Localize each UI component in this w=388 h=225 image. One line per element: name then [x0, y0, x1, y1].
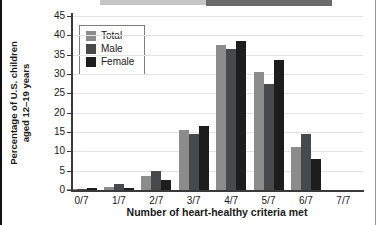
- crop-artifact-top-light: [100, 0, 206, 5]
- bar-total-5/7: [254, 72, 264, 190]
- legend-swatch-male: [86, 44, 96, 54]
- bar-male-5/7: [264, 84, 274, 190]
- bar-total-4/7: [216, 45, 226, 190]
- y-axis-line: [71, 13, 73, 191]
- legend-item-male: Male: [86, 44, 144, 54]
- y-tick-label-10: 10: [39, 145, 65, 157]
- legend-label-female: Female: [101, 57, 134, 67]
- y-axis-title-line2: aged 12–19 years: [20, 33, 32, 173]
- x-tick-label-6/7: 6/7: [291, 195, 321, 207]
- y-tick-label-45: 45: [39, 10, 65, 22]
- y-tick-label-5: 5: [39, 165, 65, 177]
- x-tick-label-4/7: 4/7: [216, 195, 246, 207]
- legend-swatch-female: [86, 57, 96, 67]
- bar-female-4/7: [236, 41, 246, 190]
- x-axis-title: Number of heart-healthy criteria met: [71, 206, 363, 218]
- y-tick-label-25: 25: [39, 87, 65, 99]
- crop-artifact-left-border: [0, 0, 2, 225]
- bar-female-2/7: [161, 180, 171, 190]
- bar-total-2/7: [141, 176, 151, 190]
- bar-total-6/7: [291, 147, 301, 190]
- x-tick-label-5/7: 5/7: [254, 195, 284, 207]
- x-axis-line: [71, 190, 364, 192]
- bar-total-3/7: [179, 130, 189, 190]
- x-tick-label-1/7: 1/7: [104, 195, 134, 207]
- y-tick-label-35: 35: [39, 49, 65, 61]
- x-tick-label-3/7: 3/7: [179, 195, 209, 207]
- y-tick-label-15: 15: [39, 126, 65, 138]
- y-tick-label-0: 0: [39, 184, 65, 196]
- x-tick-label-2/7: 2/7: [141, 195, 171, 207]
- y-axis-title: Percentage of U.S. children aged 12–19 y…: [8, 33, 32, 173]
- bar-female-3/7: [199, 126, 209, 190]
- crop-artifact-top-dark: [206, 0, 332, 6]
- legend-item-female: Female: [86, 57, 144, 67]
- figure: Percentage of U.S. children aged 12–19 y…: [0, 0, 388, 225]
- bar-female-6/7: [311, 159, 321, 190]
- bar-male-3/7: [189, 134, 199, 190]
- bar-male-2/7: [151, 171, 161, 190]
- bar-female-5/7: [274, 60, 284, 190]
- y-tick-label-20: 20: [39, 107, 65, 119]
- y-tick-label-40: 40: [39, 29, 65, 41]
- gridline-40: [71, 35, 363, 36]
- y-axis-title-line1: Percentage of U.S. children: [8, 33, 20, 173]
- x-tick-label-0/7: 0/7: [67, 195, 97, 207]
- bar-male-6/7: [301, 134, 311, 190]
- bar-male-4/7: [226, 49, 236, 190]
- legend-label-male: Male: [101, 44, 123, 54]
- gridline-45: [71, 16, 363, 17]
- crop-artifact-right-border: [375, 0, 376, 225]
- y-tick-label-30: 30: [39, 68, 65, 80]
- legend: Total Male Female: [79, 25, 145, 75]
- x-tick-label-7/7: 7/7: [328, 195, 358, 207]
